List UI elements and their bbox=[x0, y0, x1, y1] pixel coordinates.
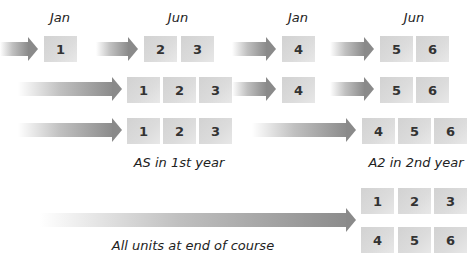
month-label: Jan bbox=[288, 10, 308, 25]
unit-box-5: 5 bbox=[380, 77, 413, 103]
unit-box-5: 5 bbox=[398, 227, 431, 253]
unit-box-2: 2 bbox=[163, 77, 196, 103]
unit-box-6: 6 bbox=[434, 227, 467, 253]
arrow-icon bbox=[330, 37, 374, 61]
route-caption: AS in 1st year bbox=[134, 155, 225, 170]
unit-box-4: 4 bbox=[282, 77, 315, 103]
unit-box-6: 6 bbox=[434, 118, 467, 144]
unit-box-3: 3 bbox=[181, 36, 214, 62]
unit-box-3: 3 bbox=[199, 118, 232, 144]
arrow-shaft bbox=[0, 42, 28, 56]
unit-box-4: 4 bbox=[362, 118, 395, 144]
unit-box-4: 4 bbox=[361, 227, 394, 253]
arrow-head bbox=[266, 77, 276, 101]
arrow-icon bbox=[18, 77, 122, 101]
unit-box-6: 6 bbox=[416, 77, 449, 103]
arrow-icon bbox=[252, 118, 356, 142]
arrow-icon bbox=[330, 77, 374, 101]
arrow-shaft bbox=[40, 213, 346, 227]
month-label: Jun bbox=[404, 10, 424, 25]
unit-box-4: 4 bbox=[282, 36, 315, 62]
unit-box-2: 2 bbox=[163, 118, 196, 144]
arrow-head bbox=[112, 77, 122, 101]
unit-box-5: 5 bbox=[380, 36, 413, 62]
arrow-shaft bbox=[18, 123, 112, 137]
unit-box-6: 6 bbox=[416, 36, 449, 62]
route-caption: A2 in 2nd year bbox=[368, 155, 463, 170]
arrow-shaft bbox=[96, 42, 128, 56]
unit-box-1: 1 bbox=[361, 188, 394, 214]
arrow-head bbox=[346, 118, 356, 142]
arrow-icon bbox=[40, 208, 356, 232]
unit-box-2: 2 bbox=[144, 36, 177, 62]
arrow-shaft bbox=[232, 42, 266, 56]
arrow-head bbox=[364, 37, 374, 61]
arrow-head bbox=[266, 37, 276, 61]
arrow-icon bbox=[232, 37, 276, 61]
month-label: Jan bbox=[50, 10, 70, 25]
arrow-head bbox=[364, 77, 374, 101]
unit-box-1: 1 bbox=[44, 36, 77, 62]
month-label: Jun bbox=[168, 10, 188, 25]
arrow-shaft bbox=[252, 123, 346, 137]
unit-box-2: 2 bbox=[398, 188, 431, 214]
arrow-head bbox=[28, 37, 38, 61]
arrow-shaft bbox=[330, 42, 364, 56]
arrow-icon bbox=[96, 37, 138, 61]
arrow-icon bbox=[0, 37, 38, 61]
arrow-icon bbox=[18, 118, 122, 142]
unit-box-1: 1 bbox=[127, 77, 160, 103]
arrow-head bbox=[346, 208, 356, 232]
arrow-head bbox=[128, 37, 138, 61]
unit-box-3: 3 bbox=[434, 188, 467, 214]
route-caption: All units at end of course bbox=[112, 238, 274, 253]
arrow-shaft bbox=[330, 82, 364, 96]
unit-box-1: 1 bbox=[127, 118, 160, 144]
arrow-head bbox=[112, 118, 122, 142]
arrow-icon bbox=[232, 77, 276, 101]
unit-box-5: 5 bbox=[398, 118, 431, 144]
arrow-shaft bbox=[18, 82, 112, 96]
unit-box-3: 3 bbox=[199, 77, 232, 103]
arrow-shaft bbox=[232, 82, 266, 96]
